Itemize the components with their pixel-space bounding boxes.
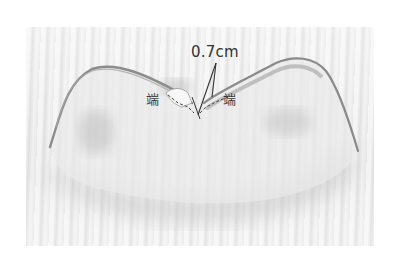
end-label-right: 端	[223, 93, 236, 106]
end-label-left: 端	[146, 93, 159, 106]
fabric-shade-right	[264, 108, 312, 136]
fabric-photo: 0.7cm 端 端	[26, 27, 374, 246]
measurement-label: 0.7cm	[191, 45, 239, 60]
fabric-shade-left	[78, 110, 114, 154]
